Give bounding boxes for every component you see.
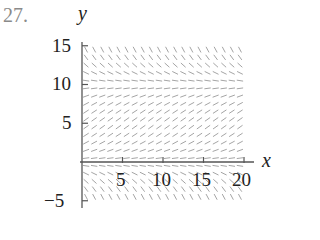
- slope-segment: [180, 172, 186, 175]
- slope-segment: [93, 194, 96, 200]
- slope-segment: [116, 102, 122, 105]
- slope-segment: [189, 141, 195, 144]
- slope-segment: [157, 194, 160, 200]
- slope-segment: [204, 80, 210, 81]
- slope-segment: [189, 118, 194, 122]
- slope-segment: [109, 47, 112, 53]
- slope-segment: [148, 102, 154, 105]
- slope-segment: [115, 158, 121, 159]
- slope-segment: [205, 95, 211, 97]
- slope-segment: [164, 165, 170, 166]
- slope-segment: [108, 110, 113, 113]
- slope-segment: [125, 194, 128, 200]
- slope-segment: [213, 102, 219, 105]
- slope-segment: [196, 80, 202, 81]
- slope-segment: [149, 194, 152, 200]
- slope-segment: [100, 55, 104, 60]
- slope-segment: [99, 102, 105, 105]
- slope-segment: [109, 194, 112, 200]
- slope-segment: [132, 118, 137, 122]
- slope-segment: [115, 95, 121, 97]
- slope-segment: [99, 158, 105, 159]
- slope-segment: [196, 165, 202, 166]
- slope-segment: [212, 88, 218, 89]
- slope-segment: [116, 118, 121, 122]
- slope-segment: [197, 71, 203, 74]
- slope-segment: [197, 118, 202, 122]
- slope-segment: [124, 133, 129, 136]
- slope-segment: [156, 158, 162, 159]
- slope-segment: [229, 149, 235, 151]
- slope-segment: [84, 179, 89, 183]
- slope-segment: [123, 165, 129, 166]
- slope-segment: [92, 118, 97, 122]
- slope-segment: [229, 110, 234, 113]
- slope-segment: [230, 194, 233, 200]
- slope-segment: [83, 110, 88, 113]
- slope-segment: [140, 110, 145, 113]
- slope-segment: [172, 165, 178, 166]
- slope-segment: [221, 118, 226, 122]
- slope-segment: [141, 187, 145, 192]
- slope-segment: [116, 71, 122, 74]
- slope-segment: [99, 172, 105, 175]
- slope-segment: [140, 95, 146, 97]
- slope-segment: [181, 55, 185, 60]
- slope-segment: [164, 141, 170, 144]
- slope-segment: [174, 47, 177, 53]
- slope-segment: [205, 63, 210, 67]
- slope-segment: [83, 125, 88, 129]
- slope-segment: [237, 80, 243, 81]
- slope-segment: [172, 80, 178, 81]
- x-axis-label: x: [261, 149, 271, 171]
- slope-segment: [141, 55, 145, 60]
- slope-segment: [190, 194, 193, 200]
- slope-segment: [229, 95, 235, 97]
- slope-segment: [91, 133, 96, 136]
- slope-segment: [180, 95, 186, 97]
- slope-segment: [165, 63, 170, 67]
- slope-segment: [221, 149, 227, 151]
- slope-segment: [116, 125, 121, 129]
- slope-segment: [205, 110, 210, 113]
- slope-segment: [205, 141, 211, 144]
- slope-segment: [100, 63, 105, 67]
- slope-segment: [172, 88, 178, 89]
- slope-segment: [115, 149, 121, 151]
- slope-segment: [229, 80, 235, 81]
- slope-segment: [182, 47, 185, 53]
- slope-segment: [164, 149, 170, 151]
- slope-segment: [107, 172, 113, 175]
- y-tick-neg5: −5: [44, 190, 64, 211]
- x-tick-5: 5: [116, 169, 126, 190]
- slope-segment: [117, 194, 120, 200]
- slope-segment: [230, 55, 234, 60]
- slope-segment: [173, 179, 178, 183]
- slope-segment: [221, 141, 227, 144]
- slope-segment: [188, 158, 194, 159]
- slope-segment: [229, 102, 235, 105]
- slope-segment: [108, 187, 112, 192]
- slope-segment: [83, 88, 89, 89]
- slope-segment: [148, 141, 154, 144]
- slope-segment: [189, 125, 194, 129]
- slope-segment: [221, 80, 227, 81]
- slope-segment: [91, 172, 97, 175]
- slope-segment: [237, 125, 242, 129]
- slope-segment: [124, 118, 129, 122]
- slope-segment: [83, 133, 88, 136]
- slope-segment: [99, 95, 105, 97]
- slope-segment: [148, 149, 154, 151]
- slope-segment: [156, 141, 162, 144]
- slope-segment: [213, 149, 219, 151]
- slope-segment: [205, 71, 211, 74]
- slope-segment: [140, 165, 146, 166]
- slope-segment: [99, 141, 105, 144]
- slope-segment: [91, 71, 97, 74]
- slope-segment: [238, 194, 241, 200]
- slope-segment: [206, 194, 209, 200]
- slope-segment: [100, 125, 105, 129]
- slope-segment: [91, 80, 97, 81]
- slope-segment: [133, 55, 137, 60]
- slope-segment: [221, 172, 227, 175]
